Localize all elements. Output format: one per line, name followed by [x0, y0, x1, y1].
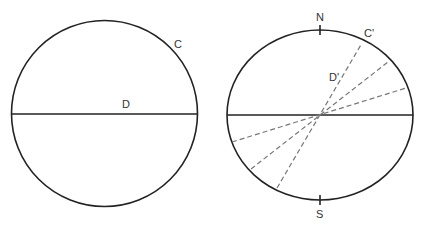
label-south: S	[316, 208, 323, 220]
label-c-prime: C'	[364, 27, 374, 39]
diagram-canvas: C D N S C' D'	[0, 0, 422, 225]
label-d-prime: D'	[329, 71, 339, 83]
label-north: N	[316, 11, 324, 23]
left-figure: C D	[12, 21, 198, 207]
label-c: C	[174, 38, 182, 50]
label-d: D	[122, 98, 130, 110]
right-figure: N S C' D'	[227, 11, 413, 220]
